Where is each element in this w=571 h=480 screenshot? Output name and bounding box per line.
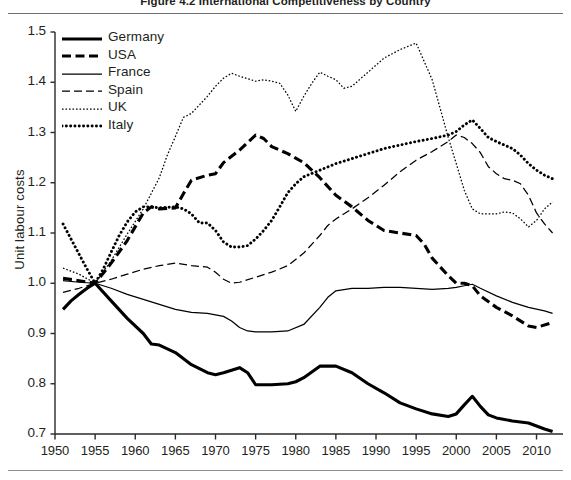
- legend-item-italy: Italy: [62, 116, 164, 134]
- x-tick-label: 2005: [474, 443, 518, 458]
- legend-swatch-icon: [62, 31, 102, 43]
- y-tick-label: 1.4: [12, 73, 46, 88]
- legend-swatch-icon: [62, 83, 102, 95]
- x-tick-label: 1970: [194, 443, 238, 458]
- y-tick-label: 1.5: [12, 23, 46, 38]
- y-tick-label: 1.0: [12, 274, 46, 289]
- y-tick-label: 0.7: [12, 425, 46, 440]
- legend-label: Spain: [108, 83, 143, 96]
- y-tick-label: 1.1: [12, 224, 46, 239]
- figure-container: Figure 4.2 International Competitiveness…: [0, 0, 571, 480]
- legend-item-usa: USA: [62, 46, 164, 64]
- legend-item-uk: UK: [62, 98, 164, 116]
- legend-swatch-icon: [62, 118, 102, 130]
- series-line-germany: [63, 283, 553, 431]
- legend-swatch-icon: [62, 101, 102, 113]
- y-tick-label: 0.8: [12, 375, 46, 390]
- chart-legend: GermanyUSAFranceSpainUKItaly: [62, 28, 164, 133]
- x-tick-label: 1975: [234, 443, 278, 458]
- x-tick-label: 1995: [394, 443, 438, 458]
- legend-label: France: [108, 65, 151, 78]
- series-line-france: [63, 281, 553, 332]
- x-tick-label: 1950: [33, 443, 77, 458]
- x-tick-label: 1980: [274, 443, 318, 458]
- legend-label: USA: [108, 48, 136, 61]
- legend-item-france: France: [62, 63, 164, 81]
- legend-item-spain: Spain: [62, 81, 164, 99]
- series-line-usa: [63, 135, 553, 327]
- legend-item-germany: Germany: [62, 28, 164, 46]
- y-tick-label: 0.9: [12, 325, 46, 340]
- y-tick-label: 1.2: [12, 174, 46, 189]
- x-tick-label: 2000: [434, 443, 478, 458]
- y-tick-label: 1.3: [12, 124, 46, 139]
- legend-swatch-icon: [62, 48, 102, 60]
- legend-label: UK: [108, 100, 127, 113]
- x-tick-label: 1965: [153, 443, 197, 458]
- x-tick-label: 1955: [73, 443, 117, 458]
- x-tick-label: 1960: [113, 443, 157, 458]
- legend-label: Germany: [108, 30, 164, 43]
- x-tick-label: 2010: [515, 443, 559, 458]
- x-tick-label: 1985: [314, 443, 358, 458]
- legend-swatch-icon: [62, 66, 102, 78]
- series-line-italy: [63, 120, 553, 283]
- legend-label: Italy: [108, 118, 133, 131]
- x-tick-label: 1990: [354, 443, 398, 458]
